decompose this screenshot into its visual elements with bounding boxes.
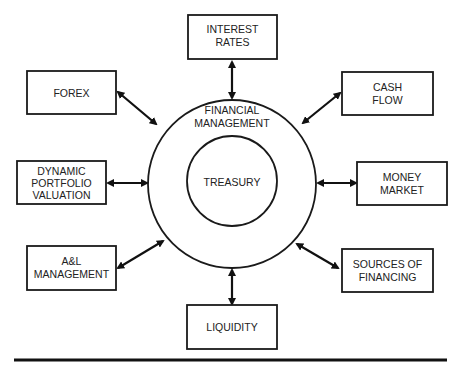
arrow-sources-of-financing	[297, 244, 338, 268]
node-label: INTEREST	[207, 23, 260, 35]
arrow-forex	[118, 92, 156, 124]
arrow-al-management	[118, 241, 163, 268]
financial-management-label-line2: MANAGEMENT	[194, 117, 270, 129]
treasury-label: TREASURY	[204, 176, 261, 188]
node-label: MANAGEMENT	[34, 268, 110, 280]
arrow-cash-flow	[303, 93, 340, 123]
node-cash-flow: CASH FLOW	[342, 72, 433, 115]
treasury-circle: TREASURY	[187, 136, 277, 226]
financial-management-label-line1: FINANCIAL	[205, 104, 260, 116]
node-label: MARKET	[380, 184, 424, 196]
node-label: MONEY	[383, 171, 422, 183]
treasury-diagram: FINANCIAL MANAGEMENT TREASURY INTEREST R…	[0, 0, 462, 370]
node-label: FOREX	[53, 87, 89, 99]
node-label: FLOW	[372, 94, 402, 106]
node-label: LIQUIDITY	[206, 321, 257, 333]
node-interest-rates: INTEREST RATES	[188, 15, 277, 59]
node-label: DYNAMIC	[37, 165, 86, 177]
node-label: A&L	[62, 255, 82, 267]
node-label: PORTFOLIO	[31, 177, 91, 189]
node-forex: FOREX	[27, 71, 116, 114]
node-money-market: MONEY MARKET	[357, 162, 447, 205]
node-dynamic-portfolio-valuation: DYNAMIC PORTFOLIO VALUATION	[17, 161, 106, 204]
node-label: VALUATION	[33, 189, 91, 201]
node-label: FINANCING	[359, 271, 417, 283]
node-liquidity: LIQUIDITY	[187, 305, 277, 349]
node-label: RATES	[215, 36, 249, 48]
node-label: CASH	[373, 81, 402, 93]
node-sources-of-financing: SOURCES OF FINANCING	[342, 249, 433, 292]
node-label: SOURCES OF	[353, 258, 422, 270]
node-al-management: A&L MANAGEMENT	[27, 246, 116, 290]
